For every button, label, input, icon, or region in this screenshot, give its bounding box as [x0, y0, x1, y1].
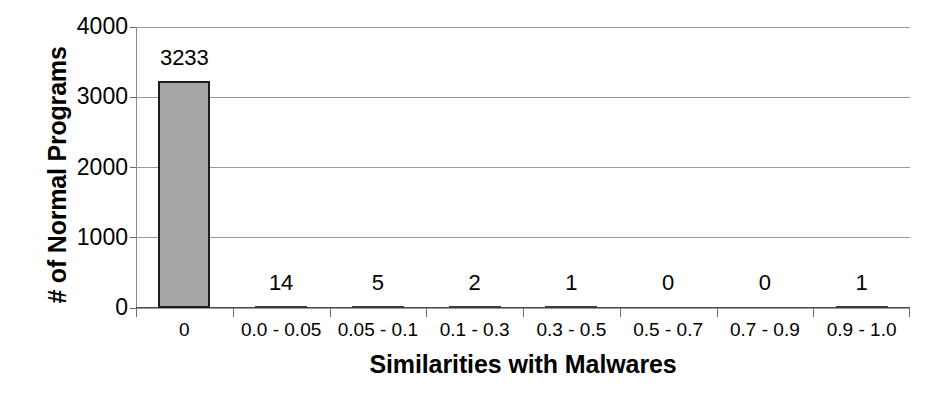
x-axis-tickmark [330, 308, 331, 317]
y-tick-label: 0 [36, 296, 128, 319]
x-tick-label: 0.1 - 0.3 [440, 319, 510, 341]
bar-value-label: 1 [856, 272, 868, 294]
bar-value-label: 0 [662, 272, 674, 294]
x-axis-tickmarks [136, 308, 910, 317]
bar-value-label: 1 [565, 272, 577, 294]
x-tick-label: 0.7 - 0.9 [730, 319, 800, 341]
x-axis-tickmark [813, 308, 814, 317]
x-axis-tickmark [233, 308, 234, 317]
bar-slot: 1 [523, 27, 620, 308]
x-tick-label: 0.5 - 0.7 [633, 319, 703, 341]
bar-value-label: 5 [372, 272, 384, 294]
x-tick-label: 0 [179, 319, 190, 341]
y-tick-label: 3000 [36, 85, 128, 108]
x-axis-tick-labels: 00.0 - 0.050.05 - 0.10.1 - 0.30.3 - 0.50… [136, 319, 910, 347]
bar-slot: 1 [813, 27, 910, 308]
x-tick-label: 0.9 - 1.0 [827, 319, 897, 341]
bar-slot: 14 [233, 27, 330, 308]
x-axis-tickmark [523, 308, 524, 317]
x-axis-tickmark [909, 308, 910, 317]
x-axis-tickmark [136, 308, 137, 317]
y-axis-tick-labels: 4000 3000 2000 1000 0 [32, 0, 128, 401]
bars-layer: 323314521001 [136, 27, 910, 308]
x-axis-tickmark [620, 308, 621, 317]
y-tick-label: 1000 [36, 226, 128, 249]
bar-slot: 3233 [136, 27, 233, 308]
bar-value-label: 3233 [160, 47, 209, 69]
bar-slot: 2 [426, 27, 523, 308]
y-tick-label: 4000 [36, 15, 128, 38]
y-tick-label: 2000 [36, 156, 128, 179]
x-tick-label: 0.0 - 0.05 [241, 319, 321, 341]
bar[interactable] [158, 81, 210, 308]
plot-area: 323314521001 [136, 27, 910, 308]
bar-slot: 0 [620, 27, 717, 308]
bar-value-label: 14 [269, 272, 293, 294]
x-tick-label: 0.05 - 0.1 [338, 319, 418, 341]
bar-value-label: 2 [469, 272, 481, 294]
bar-slot: 5 [330, 27, 427, 308]
bar-chart: # of Normal Programs 4000 3000 2000 1000… [0, 0, 940, 401]
x-axis-tickmark [426, 308, 427, 317]
x-tick-label: 0.3 - 0.5 [537, 319, 607, 341]
bar-value-label: 0 [759, 272, 771, 294]
bar-slot: 0 [717, 27, 814, 308]
x-axis-title: Similarities with Malwares [136, 350, 910, 379]
x-axis-tickmark [717, 308, 718, 317]
